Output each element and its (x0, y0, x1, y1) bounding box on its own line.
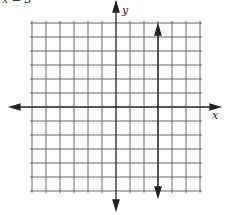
line-up-arrow-icon (155, 25, 161, 35)
y-axis-label: y (121, 4, 129, 17)
x-axis-label: x (212, 109, 219, 122)
line-down-arrow-icon (155, 187, 161, 197)
y-axis-down-arrow-icon (113, 200, 119, 210)
x-axis-left-arrow-icon (10, 104, 20, 110)
y-axis-up-arrow-icon (113, 2, 119, 12)
coordinate-plane: y x (0, 0, 225, 215)
x-axis (10, 104, 220, 110)
y-axis (113, 2, 119, 210)
